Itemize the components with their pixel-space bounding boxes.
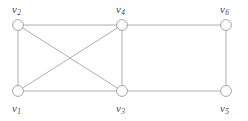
vertex-node-v5 bbox=[221, 86, 232, 97]
vertex-node-v6 bbox=[221, 20, 232, 31]
vertex-label-v4: v4 bbox=[116, 4, 125, 15]
graph-figure: v1v2v3v4v5v6 bbox=[0, 0, 248, 121]
vertex-node-v3 bbox=[117, 86, 128, 97]
vertex-label-v5: v5 bbox=[220, 103, 229, 114]
vertex-node-v2 bbox=[13, 20, 24, 31]
vertex-label-subscript: 1 bbox=[17, 107, 21, 116]
vertex-label-subscript: 6 bbox=[225, 8, 229, 17]
vertex-label-v3: v3 bbox=[116, 103, 125, 114]
vertex-node-v4 bbox=[117, 20, 128, 31]
vertex-label-v6: v6 bbox=[220, 4, 229, 15]
edge-layer bbox=[18, 25, 226, 91]
vertex-label-v1: v1 bbox=[12, 103, 21, 114]
vertex-label-subscript: 2 bbox=[17, 8, 21, 17]
vertex-label-subscript: 5 bbox=[225, 107, 229, 116]
vertex-label-subscript: 3 bbox=[121, 107, 125, 116]
vertex-label-v2: v2 bbox=[12, 4, 21, 15]
vertex-node-v1 bbox=[13, 86, 24, 97]
vertex-label-subscript: 4 bbox=[121, 8, 125, 17]
